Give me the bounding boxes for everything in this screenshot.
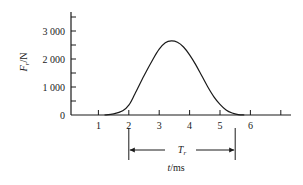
x-tick-label: 5	[218, 120, 223, 131]
x-axis: 123456	[71, 110, 291, 131]
x-axis-label: t/ms	[167, 162, 184, 173]
right-arrowhead-icon	[229, 148, 234, 153]
force-time-chart: 01 0002 0003 000 123456 Fr/N Tr t/ms	[0, 0, 303, 185]
x-tick-label: 3	[157, 120, 162, 131]
y-axis: 01 0002 0003 000	[43, 12, 77, 121]
y-tick-label: 1 000	[43, 82, 66, 93]
x-tick-label: 4	[187, 120, 192, 131]
interval-label: Tr	[178, 144, 187, 157]
y-tick-label: 0	[60, 110, 65, 121]
force-curve	[104, 41, 244, 115]
x-label-unit: /ms	[170, 162, 185, 173]
tr-interval-annotation: Tr	[129, 128, 235, 160]
x-tick-label: 6	[248, 120, 253, 131]
y-axis-label: Fr/N	[18, 53, 31, 73]
x-tick-label: 1	[96, 120, 101, 131]
y-tick-label: 3 000	[43, 26, 66, 37]
y-tick-label: 2 000	[43, 54, 66, 65]
left-arrowhead-icon	[130, 148, 135, 153]
svg-text:Fr/N: Fr/N	[18, 53, 31, 73]
y-label-unit: /N	[18, 53, 29, 63]
